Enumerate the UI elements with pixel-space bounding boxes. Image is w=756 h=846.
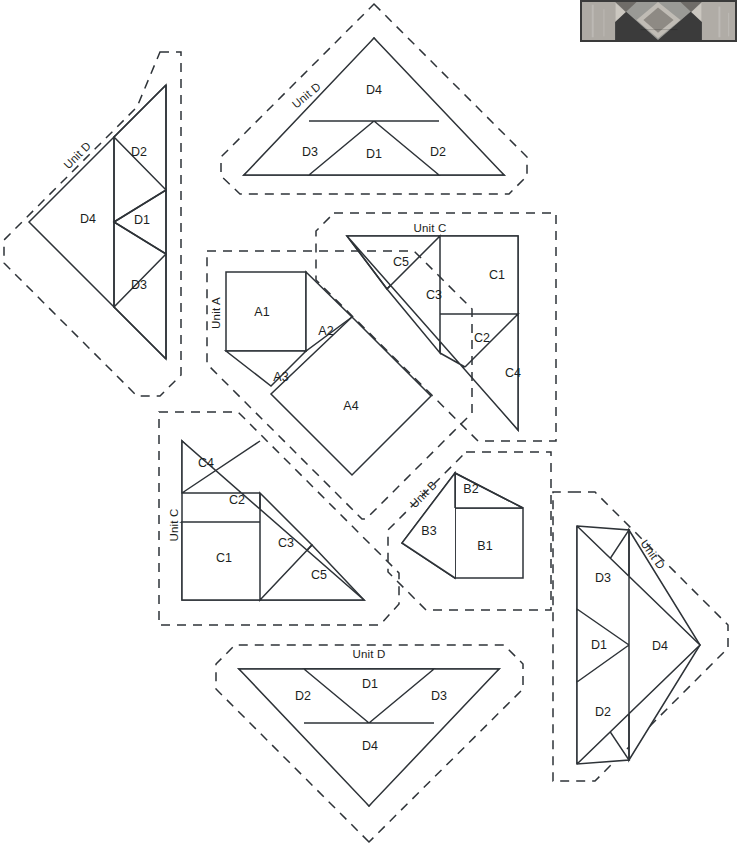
unit-d-bottom-label: Unit D [352, 648, 385, 660]
unit-d-bottom[interactable]: D1 D2 D3 D4 Unit D [216, 645, 523, 842]
photo-content [582, 2, 735, 40]
piece-d1-label: D1 [591, 638, 607, 652]
unit-c-top-label: Unit C [413, 222, 446, 234]
piece-d3-label: D3 [595, 571, 611, 585]
piece-a2-label: A2 [318, 324, 333, 338]
quilt-cutting-diagram: D4 D2 D1 D3 Unit D D4 D3 D1 D2 Unit D [0, 0, 756, 846]
piece-c1-label: C1 [216, 551, 232, 565]
piece-d1-label: D1 [362, 677, 378, 691]
piece-d3-label: D3 [302, 145, 318, 159]
unit-a-label: Unit A [210, 297, 222, 329]
piece-c3-label: C3 [278, 536, 294, 550]
unit-c-bottom-label: Unit C [168, 508, 180, 541]
unit-d-right[interactable]: D3 D1 D4 D2 Unit D [553, 492, 728, 781]
piece-d4-label: D4 [652, 639, 668, 653]
photo-patch [702, 2, 735, 40]
piece-b1-label: B1 [477, 539, 492, 553]
photo-patch [582, 2, 615, 40]
piece-c4-label: C4 [198, 456, 214, 470]
piece-d2-label: D2 [430, 145, 446, 159]
unit-d-top[interactable]: D4 D3 D1 D2 Unit D [221, 4, 527, 194]
piece-d2-label: D2 [131, 145, 147, 159]
piece-a4-label: A4 [343, 399, 358, 413]
piece-b3-label: B3 [421, 524, 436, 538]
piece-d2-label: D2 [595, 705, 611, 719]
piece-d1-label: D1 [366, 147, 382, 161]
piece-a1-label: A1 [254, 305, 269, 319]
piece-d4-label: D4 [362, 739, 378, 753]
diagram-sheet: D4 D2 D1 D3 Unit D D4 D3 D1 D2 Unit D [0, 0, 756, 846]
piece-d3-label: D3 [131, 278, 147, 292]
piece-d3-label: D3 [431, 689, 447, 703]
unit-d-left[interactable]: D4 D2 D1 D3 Unit D [4, 52, 181, 396]
piece-d1-label: D1 [134, 213, 150, 227]
piece-c2-label: C2 [474, 331, 490, 345]
finished-block-photo [580, 0, 737, 42]
piece-b2-label: B2 [463, 482, 478, 496]
piece-c3-label: C3 [426, 288, 442, 302]
piece-d4-label: D4 [366, 83, 382, 97]
piece-c1-label: C1 [489, 268, 505, 282]
piece-c5-label: C5 [311, 568, 327, 582]
piece-c2-label: C2 [229, 493, 245, 507]
piece-a3-label: A3 [273, 370, 288, 384]
piece-c5-label: C5 [393, 255, 409, 269]
piece-d2-label: D2 [295, 689, 311, 703]
piece-c4-label: C4 [505, 366, 521, 380]
piece-d4-label: D4 [80, 212, 96, 226]
piece-d3[interactable] [114, 254, 166, 359]
unit-b[interactable]: B2 B3 B1 Unit B [388, 452, 551, 610]
